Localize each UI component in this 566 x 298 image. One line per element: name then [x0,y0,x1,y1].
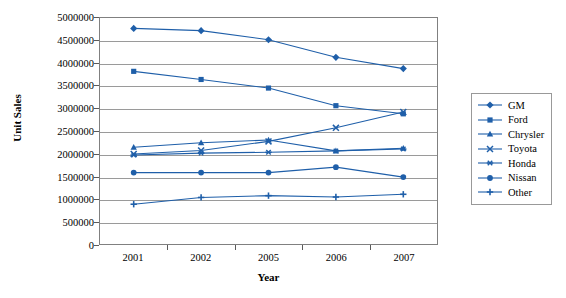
y-axis-tick [94,177,99,178]
data-point-plus [198,194,204,200]
data-point-circle [198,170,204,176]
legend-marker-circle-icon [477,171,503,185]
data-point-circle [487,175,493,181]
y-axis-tick [94,85,99,86]
legend-item-honda[interactable]: Honda [477,156,544,171]
y-axis-tick [94,108,99,109]
x-axis-tick-label: 2006 [301,252,371,263]
legend-item-chrysler[interactable]: Chrysler [477,127,544,142]
legend-marker-square-icon [477,113,503,127]
data-point-plus [487,189,493,195]
data-point-plus [131,201,137,207]
y-axis-tick [94,17,99,18]
y-axis-tick [94,222,99,223]
y-axis-tick-label: 500000 [18,217,94,228]
y-axis-tick-label: 0 [18,240,94,251]
legend-item-nissan[interactable]: Nissan [477,171,544,186]
x-axis-tick-label: 2002 [166,252,236,263]
legend-item-toyota[interactable]: Toyota [477,142,544,157]
y-axis-tick-label: 3500000 [18,80,94,91]
data-point-square [487,117,492,122]
data-point-square [199,77,204,82]
series-nissan [131,164,406,180]
legend-label: Other [503,187,532,198]
y-axis-tick-label: 5000000 [18,12,94,23]
data-point-diamond [265,36,272,43]
legend-marker-triangle-icon [477,127,503,141]
data-point-diamond [400,65,407,72]
y-axis-tick-label: 4500000 [18,34,94,45]
y-axis-tick-label: 2000000 [18,148,94,159]
y-axis-tick-label: 2500000 [18,126,94,137]
plot-area [99,17,438,245]
legend: GMFordChryslerToyotaHondaNissanOther [471,93,552,205]
data-point-diamond [198,27,205,34]
y-axis-tick [94,131,99,132]
data-point-square [131,69,136,74]
data-point-square [266,85,271,90]
y-axis-tick [94,245,99,246]
x-axis-tick-label: 2005 [234,252,304,263]
legend-item-ford[interactable]: Ford [477,113,544,128]
series-chrysler [131,137,407,154]
data-point-square [333,103,338,108]
data-point-star [198,151,204,155]
x-axis-tick [370,245,371,250]
data-point-circle [131,170,137,176]
y-axis-tick [94,199,99,200]
series-gm [130,25,407,72]
series-other [131,191,407,207]
series-ford [131,69,406,117]
series-line [134,71,404,113]
x-axis-tick-label: 2001 [98,252,168,263]
data-point-star [265,150,271,154]
data-point-circle [333,164,339,170]
data-point-diamond [130,25,137,32]
legend-marker-plus-icon [477,185,503,199]
legend-label: GM [503,100,525,111]
x-axis-tick-label: 2007 [369,252,439,263]
unit-sales-line-chart: Unit Sales 05000001000000150000020000002… [0,0,566,298]
legend-label: Chrysler [503,129,544,140]
legend-item-gm[interactable]: GM [477,98,544,113]
x-axis-tick [302,245,303,250]
x-axis-tick [167,245,168,250]
y-axis-tick-label: 1500000 [18,171,94,182]
series-line [134,112,404,154]
data-point-plus [265,192,271,198]
y-axis-tick-label: 4000000 [18,57,94,68]
legend-marker-x-icon [477,142,503,156]
data-point-diamond [486,102,493,109]
y-axis-tick [94,63,99,64]
y-axis-tick-labels: 0500000100000015000002000000250000030000… [18,17,94,245]
x-axis-title: Year [99,271,438,283]
data-point-diamond [332,54,339,61]
legend-label: Honda [503,158,536,169]
legend-marker-diamond-icon [477,98,503,112]
y-axis-tick [94,40,99,41]
x-axis-tick [235,245,236,250]
series-lines [100,18,437,244]
legend-item-other[interactable]: Other [477,185,544,200]
data-point-plus [400,191,406,197]
data-point-star [487,161,493,165]
data-point-circle [266,170,272,176]
series-line [134,28,404,68]
y-axis-tick-label: 3000000 [18,103,94,114]
legend-marker-star-icon [477,156,503,170]
legend-label: Ford [503,114,528,125]
data-point-plus [333,194,339,200]
legend-label: Toyota [503,143,537,154]
data-point-circle [400,174,406,180]
legend-label: Nissan [503,172,537,183]
y-axis-tick [94,154,99,155]
y-axis-tick-label: 1000000 [18,194,94,205]
